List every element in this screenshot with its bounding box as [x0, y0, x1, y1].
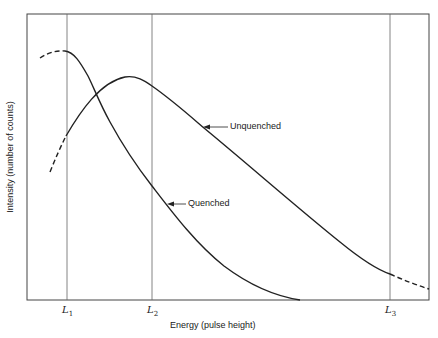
- unquenched-curve: [66, 77, 390, 274]
- unquenched-curve-dashed-left: [50, 136, 66, 172]
- tick-l1-letter: L: [62, 304, 69, 315]
- tick-l3: L3: [385, 304, 396, 318]
- plot-frame: [27, 14, 429, 300]
- y-axis-label: Intensity (number of counts): [5, 97, 15, 217]
- unquenched-label: Unquenched: [230, 121, 281, 131]
- quenched-curve: [65, 51, 300, 300]
- unquenched-curve-dashed-right: [390, 274, 429, 289]
- tick-l1-sub: 1: [69, 310, 73, 318]
- tick-l2-sub: 2: [154, 310, 158, 318]
- tick-l1: L1: [62, 304, 73, 318]
- x-axis-label: Energy (pulse height): [170, 320, 256, 330]
- tick-l3-sub: 3: [392, 310, 396, 318]
- chart-canvas: [0, 0, 438, 338]
- tick-l3-letter: L: [385, 304, 392, 315]
- tick-l2-letter: L: [147, 304, 154, 315]
- quenched-curve-dashed: [40, 51, 65, 58]
- tick-l2: L2: [147, 304, 158, 318]
- quenched-label: Quenched: [188, 198, 230, 208]
